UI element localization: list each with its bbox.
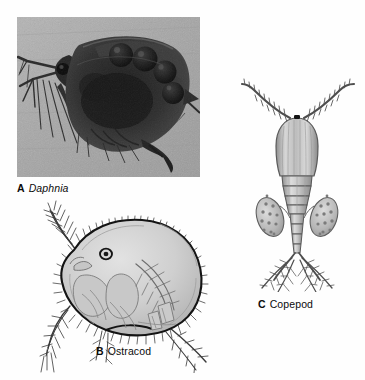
zooplankton-figure: ADaphnia xyxy=(0,0,365,380)
copepod-illustration xyxy=(232,72,362,292)
panel-a-daphnia xyxy=(17,17,200,177)
caption-panel-c: CCopepod xyxy=(258,298,313,310)
daphnia-photograph xyxy=(17,17,200,177)
caption-a-name: Daphnia xyxy=(29,182,69,194)
caption-panel-a: ADaphnia xyxy=(17,182,69,194)
panel-c-copepod xyxy=(232,72,362,292)
caption-a-letter: A xyxy=(17,182,25,194)
caption-c-letter: C xyxy=(258,298,266,310)
caption-panel-b: BOstracod xyxy=(96,345,151,357)
caption-b-name: Ostracod xyxy=(108,345,151,357)
caption-b-letter: B xyxy=(96,345,104,357)
caption-c-name: Copepod xyxy=(270,298,313,310)
